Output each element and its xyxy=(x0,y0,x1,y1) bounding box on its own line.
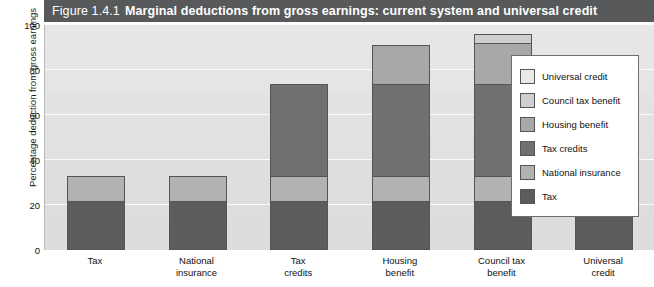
y-tick-label: 20 xyxy=(4,200,40,211)
y-axis-ticks: 020406080100 xyxy=(0,25,44,250)
bar-segment[interactable] xyxy=(270,201,328,251)
legend-swatch-icon xyxy=(520,69,535,84)
x-tick-line: credit xyxy=(592,267,615,278)
y-tick-label: 80 xyxy=(4,65,40,76)
bar-stack[interactable] xyxy=(270,25,328,250)
legend-item[interactable]: Universal credit xyxy=(520,64,632,88)
bar-segment[interactable] xyxy=(474,34,532,43)
x-tick-line: Tax xyxy=(291,255,306,266)
bar-segment[interactable] xyxy=(372,201,430,251)
bar-stack[interactable] xyxy=(67,25,125,250)
legend-label: Universal credit xyxy=(542,71,607,82)
legend-item[interactable]: Tax xyxy=(520,184,632,208)
figure-container: Figure 1.4.1 Marginal deductions from gr… xyxy=(0,0,654,287)
x-tick-line: insurance xyxy=(176,267,217,278)
legend-label: Tax credits xyxy=(542,143,587,154)
bar-segment[interactable] xyxy=(372,176,430,201)
legend-label: Housing benefit xyxy=(542,119,608,130)
bar-segment[interactable] xyxy=(270,176,328,201)
legend-item[interactable]: Council tax benefit xyxy=(520,88,632,112)
legend-item[interactable]: Tax credits xyxy=(520,136,632,160)
legend-swatch-icon xyxy=(520,189,535,204)
x-tick-label: Nationalinsurance xyxy=(146,255,248,278)
x-tick-line: benefit xyxy=(386,267,415,278)
legend-swatch-icon xyxy=(520,141,535,156)
x-tick-line: Housing xyxy=(382,255,417,266)
x-tick-label: Housingbenefit xyxy=(349,255,451,278)
x-tick-line: National xyxy=(179,255,214,266)
legend-label: Tax xyxy=(542,191,557,202)
chart-legend: Universal creditCouncil tax benefitHousi… xyxy=(511,55,639,217)
x-tick-label: Tax xyxy=(44,255,146,267)
bar-segment[interactable] xyxy=(67,201,125,251)
y-tick-label: 40 xyxy=(4,155,40,166)
y-tick-label: 100 xyxy=(4,20,40,31)
legend-label: Council tax benefit xyxy=(542,95,620,106)
x-axis-labels: TaxNationalinsuranceTaxcreditsHousingben… xyxy=(44,250,654,287)
x-tick-label: Taxcredits xyxy=(247,255,349,278)
x-tick-line: credits xyxy=(284,267,312,278)
bar-segment[interactable] xyxy=(372,45,430,83)
bar-segment[interactable] xyxy=(372,84,430,176)
x-tick-line: Tax xyxy=(87,255,102,266)
x-tick-label: Council taxbenefit xyxy=(451,255,553,278)
bar-stack[interactable] xyxy=(372,25,430,250)
bar-segment[interactable] xyxy=(270,84,328,176)
figure-number: Figure 1.4.1 xyxy=(52,4,120,18)
x-tick-line: Universal xyxy=(583,255,623,266)
legend-label: National insurance xyxy=(542,167,621,178)
legend-item[interactable]: National insurance xyxy=(520,160,632,184)
bar-segment[interactable] xyxy=(67,176,125,201)
y-tick-label: 0 xyxy=(4,245,40,256)
bar-stack[interactable] xyxy=(169,25,227,250)
legend-swatch-icon xyxy=(520,117,535,132)
y-tick-label: 60 xyxy=(4,110,40,121)
legend-swatch-icon xyxy=(520,165,535,180)
legend-item[interactable]: Housing benefit xyxy=(520,112,632,136)
x-tick-line: Council tax xyxy=(478,255,525,266)
bar-segment[interactable] xyxy=(169,176,227,201)
page-title: Marginal deductions from gross earnings:… xyxy=(125,4,597,18)
bar-segment[interactable] xyxy=(169,201,227,251)
figure-title-bar: Figure 1.4.1 Marginal deductions from gr… xyxy=(44,0,654,22)
x-tick-label: Universalcredit xyxy=(552,255,654,278)
x-tick-line: benefit xyxy=(487,267,516,278)
gridline xyxy=(45,24,654,25)
legend-swatch-icon xyxy=(520,93,535,108)
